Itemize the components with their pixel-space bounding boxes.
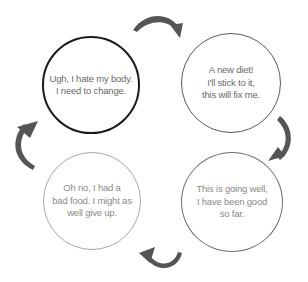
cycle-node-new-diet: A new diet! I'll stick to it, this will …: [181, 33, 281, 133]
cycle-node-give-up: Oh no, I had a bad food. I might as well…: [43, 152, 141, 250]
curved-arrow-icon: [268, 116, 291, 161]
node-label: Oh no, I had a bad food. I might as well…: [52, 182, 131, 220]
curved-arrow-icon: [15, 121, 38, 170]
node-label: A new diet! I'll stick to it, this will …: [202, 64, 260, 102]
node-label: Ugh, I hate my body. I need to change.: [50, 73, 133, 98]
node-label: This is going well, I have been good so …: [196, 183, 267, 221]
curved-arrow-icon: [139, 247, 182, 268]
cycle-node-going-well: This is going well, I have been good so …: [181, 152, 283, 252]
curved-arrow-icon: [133, 16, 183, 38]
cycle-node-hate-body: Ugh, I hate my body. I need to change.: [42, 36, 140, 134]
